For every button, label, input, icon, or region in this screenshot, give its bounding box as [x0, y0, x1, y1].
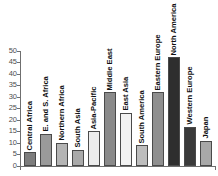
y-axis-tick-mark	[17, 74, 20, 75]
bar	[24, 152, 37, 166]
y-axis-tick-mark	[17, 120, 20, 121]
y-axis-tick-label: 20	[2, 116, 17, 124]
y-axis-tick-mark	[17, 51, 20, 52]
bar-group: Western Europe	[184, 9, 197, 166]
y-axis-tick-label: 15	[2, 128, 17, 135]
y-axis-tick-mark	[17, 62, 20, 63]
y-axis-tick-mark	[17, 166, 20, 167]
y-axis-tick-label: 25	[2, 105, 17, 113]
bar	[104, 92, 117, 166]
y-axis-line	[20, 51, 21, 167]
bar-group: South America	[136, 9, 149, 166]
bar	[136, 145, 149, 166]
bar-category-label: South America	[138, 90, 146, 143]
bar	[88, 131, 101, 166]
bar-group: North America	[168, 9, 181, 166]
y-axis-tick-mark	[17, 85, 20, 86]
bar-group: Eastern Europe	[152, 9, 165, 166]
bar-group: Asia-Pacific	[88, 9, 101, 166]
clipped-header-text-region: · · · · · · · · ·	[0, 0, 218, 9]
bar-category-label: E. and S. Africa	[42, 76, 50, 131]
plot-area: 05101520253035404550 Central AfricaE. an…	[0, 9, 218, 176]
y-axis-tick-labels: 05101520253035404550	[0, 9, 17, 176]
y-axis-tick-label: 10	[2, 139, 17, 147]
bar-group: E. and S. Africa	[40, 9, 53, 166]
bar-category-label: Asia-Pacific	[90, 86, 98, 129]
y-axis-tick-label: 45	[2, 58, 17, 66]
x-axis-line	[20, 166, 216, 167]
x-axis-left-cap	[20, 166, 21, 170]
y-axis-tick-mark	[17, 131, 20, 132]
clipped-header-text: · · · · · · · · ·	[112, 0, 147, 2]
bar-category-label: Western Europe	[186, 67, 194, 125]
y-axis-tick-label: 50	[2, 47, 17, 55]
bar	[168, 57, 181, 166]
bar-group: South Asia	[72, 9, 85, 166]
y-axis-tick-mark	[17, 108, 20, 109]
bar	[40, 134, 53, 166]
y-axis-tick-mark	[17, 143, 20, 144]
bar-group: Japan	[200, 9, 213, 166]
bar-series: Central AfricaE. and S. AfricaNorthern A…	[22, 9, 214, 166]
x-axis-right-cap	[215, 166, 216, 170]
bar-category-label: Northern Africa	[58, 85, 66, 140]
y-axis-tick-label: 30	[2, 93, 17, 101]
y-axis-tick-mark	[17, 154, 20, 155]
bar-category-label: Middle East	[106, 48, 114, 90]
y-axis-tick-label: 35	[2, 82, 17, 90]
y-axis-tick-label: 0	[2, 162, 17, 170]
bar-category-label: South Asia	[74, 108, 82, 147]
bar-group: Northern Africa	[56, 9, 69, 166]
y-axis-tick-label: 5	[2, 151, 17, 159]
bar-group: Central Africa	[24, 9, 37, 166]
bar-category-label: East Asia	[122, 77, 130, 111]
bar	[184, 127, 197, 166]
bar-chart: · · · · · · · · · 05101520253035404550 C…	[0, 0, 218, 176]
bar	[152, 92, 165, 166]
y-axis-tick-label: 40	[2, 70, 17, 78]
y-axis-tick-mark	[17, 97, 20, 98]
bar	[56, 143, 69, 166]
bar-group: Middle East	[104, 9, 117, 166]
bar	[200, 141, 213, 166]
bar	[120, 113, 133, 166]
bar-category-label: Eastern Europe	[154, 34, 162, 90]
bar-group: East Asia	[120, 9, 133, 166]
bar-category-label: Japan	[202, 117, 210, 139]
bar	[72, 150, 85, 166]
bar-category-label: North America	[170, 3, 178, 55]
bar-category-label: Central Africa	[26, 101, 34, 151]
